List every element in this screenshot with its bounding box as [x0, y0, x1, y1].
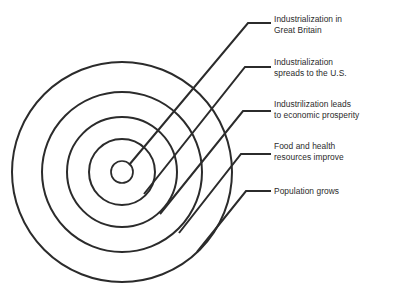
callout-label-3: Industrilization leads to economic prosp… — [274, 99, 359, 120]
callout-labels-layer: Industrialization in Great BritainIndust… — [0, 0, 400, 300]
callout-label-5: Population grows — [274, 186, 339, 197]
callout-label-2: Industrialization spreads to the U.S. — [274, 57, 347, 78]
diagram-canvas: Industrialization in Great BritainIndust… — [0, 0, 400, 300]
callout-label-4: Food and health resources improve — [274, 141, 344, 162]
callout-label-1: Industrialization in Great Britain — [274, 14, 342, 35]
